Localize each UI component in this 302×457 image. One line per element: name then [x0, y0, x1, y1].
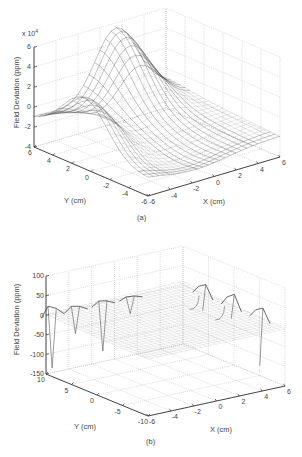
svg-text:4: 4: [47, 157, 51, 164]
panel-label-a: (a): [137, 213, 147, 222]
svg-text:2: 2: [66, 165, 70, 172]
svg-text:-10: -10: [138, 418, 148, 425]
svg-text:0: 0: [219, 403, 223, 410]
svg-text:0: 0: [216, 179, 220, 186]
svg-text:0: 0: [85, 174, 89, 181]
svg-text:100: 100: [32, 272, 44, 279]
svg-text:5: 5: [65, 387, 69, 394]
svg-text:2: 2: [238, 172, 242, 179]
figure-canvas: 6420-2-46420-2-4-6-6-4-20246 x 104 Field…: [0, 0, 302, 457]
svg-text:-2: -2: [25, 123, 31, 130]
svg-text:0: 0: [40, 312, 44, 319]
svg-text:-6: -6: [141, 198, 147, 205]
svg-text:0: 0: [27, 103, 31, 110]
svg-text:-100: -100: [30, 351, 44, 358]
svg-text:-4: -4: [171, 192, 177, 199]
z-axis-label-a: Field Deviation (ppm): [12, 56, 21, 128]
surface-plot-a: 6420-2-46420-2-4-6-6-4-20246 x 104 Field…: [12, 8, 286, 222]
grid-b: [46, 246, 285, 416]
svg-text:-2: -2: [195, 408, 201, 415]
svg-text:6: 6: [27, 43, 31, 50]
svg-text:6: 6: [28, 149, 32, 156]
surface-mesh-b: [41, 281, 285, 368]
svg-text:10: 10: [37, 376, 45, 383]
x-axis-label-b: X (cm): [210, 425, 233, 434]
svg-text:-6: -6: [149, 198, 155, 205]
svg-text:4: 4: [27, 63, 31, 70]
z-axis-label-b: Field Deviation (ppm): [12, 283, 21, 355]
svg-text:0: 0: [90, 397, 94, 404]
svg-text:-4: -4: [172, 413, 178, 420]
svg-text:-5: -5: [114, 408, 120, 415]
surface-mesh-a: [34, 28, 280, 177]
svg-text:4: 4: [264, 393, 268, 400]
svg-text:-4: -4: [122, 190, 128, 197]
svg-text:50: 50: [36, 292, 44, 299]
svg-text:6: 6: [287, 388, 291, 395]
svg-text:-2: -2: [103, 182, 109, 189]
svg-text:-50: -50: [34, 331, 44, 338]
surface-plot-b: 100500-50-100-1501050-5-10-6-4-20246 Fie…: [12, 246, 291, 446]
y-axis-label-a: Y (cm): [64, 196, 86, 205]
panel-label-b: (b): [146, 437, 156, 446]
x-axis-label-a: X (cm): [203, 197, 226, 206]
svg-text:2: 2: [27, 83, 31, 90]
svg-text:-6: -6: [149, 418, 155, 425]
svg-text:4: 4: [260, 166, 264, 173]
svg-text:2: 2: [241, 398, 245, 405]
y-axis-label-b: Y (cm): [74, 422, 96, 431]
z-multiplier-a: x 104: [22, 28, 38, 37]
svg-text:-2: -2: [193, 185, 199, 192]
svg-text:6: 6: [282, 159, 286, 166]
